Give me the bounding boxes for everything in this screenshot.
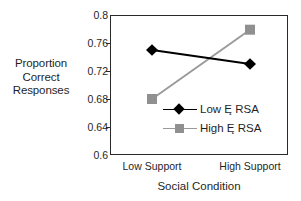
y-axis-label-line-2: Correct [2, 71, 80, 85]
data-point-low-rsa-high-support [244, 58, 256, 70]
x-tick-label-low-support: Low Support [112, 160, 192, 172]
square-marker-icon [163, 122, 197, 136]
legend-item-low-rsa: Low Ę RSA [163, 100, 283, 119]
legend-label-high-rsa: High Ę RSA [197, 122, 261, 135]
legend-label-low-rsa: Low Ę RSA [197, 103, 259, 116]
legend-item-high-rsa: High Ę RSA [163, 119, 283, 138]
series-line-low-rsa [152, 50, 250, 64]
y-tick-label-0.68: 0.68 [82, 94, 108, 105]
y-tick-label-0.6: 0.6 [82, 150, 108, 161]
data-point-low-rsa-low-support [146, 44, 158, 56]
y-tick-label-0.64: 0.64 [82, 122, 108, 133]
line-chart-figure: Proportion Correct Responses 0.8 0.76 0.… [0, 0, 301, 201]
x-tick-label-high-support: High Support [210, 160, 290, 172]
y-axis-label-line-3: Responses [2, 84, 80, 98]
x-axis-label: Social Condition [110, 180, 288, 193]
y-tick-label-0.8: 0.8 [82, 10, 108, 21]
data-point-high-rsa-low-support [147, 94, 157, 104]
chart-legend: Low Ę RSA High Ę RSA [163, 100, 283, 138]
y-axis-label-line-1: Proportion [2, 57, 80, 71]
series-line-high-rsa [152, 30, 250, 99]
data-point-high-rsa-high-support [245, 25, 255, 35]
y-axis-label: Proportion Correct Responses [2, 57, 80, 98]
diamond-marker-icon [163, 103, 197, 117]
y-tick-label-0.72: 0.72 [82, 66, 108, 77]
y-tick-label-0.76: 0.76 [82, 38, 108, 49]
